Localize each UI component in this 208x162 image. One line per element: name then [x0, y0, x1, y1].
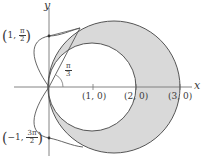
x-axis-label: x [194, 80, 200, 91]
tick-label-1: (1, 0) [82, 92, 106, 101]
y-axis-label: y [44, 0, 50, 11]
tick-label-2: (2, 0) [124, 92, 148, 101]
angle-label: π3 [65, 63, 72, 78]
point-top [48, 35, 51, 38]
label-top-point: (1, π2) [2, 28, 31, 43]
point-bottom [48, 137, 51, 140]
label-bottom-point: (−1, 3π2) [2, 130, 43, 145]
tick-label-3: (3, 0) [168, 92, 192, 101]
polar-diagram: y x (1, 0) (2, 0) (3, 0) (1, π2) (−1, 3π… [0, 0, 208, 162]
